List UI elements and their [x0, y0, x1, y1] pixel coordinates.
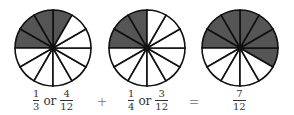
circle-seven-twelfths [202, 10, 278, 86]
fraction-circles-diagram [0, 0, 294, 90]
circle-one-third [15, 10, 91, 86]
fraction-three-twelfths: 312 [155, 89, 168, 112]
label-first-fraction: 13 or 412 [33, 89, 73, 112]
denominator: 12 [233, 102, 246, 112]
fraction-seven-twelfths: 712 [233, 89, 246, 112]
equals-sign: = [189, 95, 199, 109]
or-text: or [138, 94, 151, 108]
center-dot [145, 46, 150, 51]
fraction-four-twelfths: 412 [60, 89, 73, 112]
plus-sign: + [97, 95, 107, 109]
circle-one-quarter [109, 10, 185, 86]
numerator: 3 [159, 89, 165, 99]
numerator: 1 [128, 89, 134, 99]
numerator: 7 [236, 89, 242, 99]
denominator: 12 [155, 102, 168, 112]
fraction-one-quarter: 14 [128, 89, 134, 112]
or-text: or [43, 94, 56, 108]
label-result-fraction: 712 [233, 89, 246, 112]
center-dot [51, 46, 56, 51]
numerator: 1 [33, 89, 39, 99]
fraction-one-third: 13 [33, 89, 39, 112]
denominator: 4 [128, 102, 134, 112]
denominator: 3 [33, 102, 39, 112]
center-dot [238, 46, 243, 51]
label-second-fraction: 14 or 312 [128, 89, 168, 112]
denominator: 12 [60, 102, 73, 112]
numerator: 4 [64, 89, 70, 99]
